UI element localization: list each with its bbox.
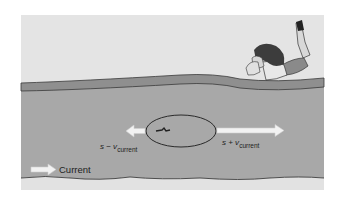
current-label: Current (59, 164, 91, 175)
river-diagram: s − vcurrent s + vcurrent Current (0, 0, 341, 198)
